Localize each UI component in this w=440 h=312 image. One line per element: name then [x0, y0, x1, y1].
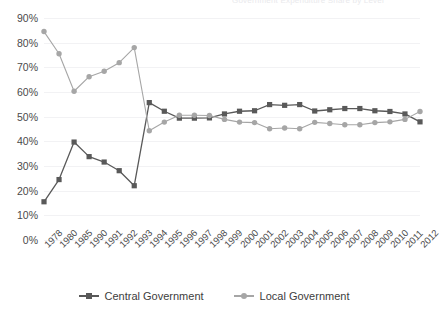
data-point-marker [56, 51, 61, 56]
data-point-marker [267, 102, 272, 107]
legend-marker-icon [86, 293, 92, 299]
series-line [44, 103, 420, 202]
data-point-marker [282, 125, 287, 130]
data-point-marker [237, 109, 242, 114]
data-point-marker [162, 109, 167, 114]
data-point-marker [312, 108, 317, 113]
data-point-marker [147, 128, 152, 133]
data-point-marker [327, 121, 332, 126]
legend-line-swatch [234, 295, 254, 297]
legend-label: Central Government [105, 290, 204, 302]
data-point-marker [41, 199, 46, 204]
data-point-marker [297, 126, 302, 131]
y-axis-tick-label: 0% [0, 234, 38, 246]
data-point-marker [282, 103, 287, 108]
data-point-marker [297, 102, 302, 107]
legend-item[interactable]: Central Government [79, 290, 204, 302]
data-point-marker [237, 119, 242, 124]
data-point-marker [87, 154, 92, 159]
data-point-marker [56, 177, 61, 182]
series-central-government [41, 100, 422, 204]
data-point-marker [372, 108, 377, 113]
y-axis-tick-label: 40% [0, 135, 38, 147]
data-point-marker [252, 120, 257, 125]
data-point-marker [71, 89, 76, 94]
data-point-marker [147, 100, 152, 105]
data-point-marker [102, 159, 107, 164]
data-point-marker [41, 29, 46, 34]
x-axis-tick-label: 2012 [418, 227, 440, 249]
data-point-marker [86, 74, 91, 79]
data-point-marker [132, 183, 137, 188]
legend-label: Local Government [260, 290, 350, 302]
data-point-marker [342, 122, 347, 127]
data-point-marker [132, 45, 137, 50]
data-point-marker [402, 111, 407, 116]
data-point-marker [387, 109, 392, 114]
data-point-marker [372, 120, 377, 125]
data-point-marker [252, 108, 257, 113]
data-point-marker [267, 126, 272, 131]
series-layer [44, 18, 420, 240]
legend-item[interactable]: Local Government [234, 290, 350, 302]
data-point-marker [327, 107, 332, 112]
data-point-marker [162, 119, 167, 124]
data-point-marker [207, 113, 212, 118]
data-point-marker [387, 119, 392, 124]
data-point-marker [222, 111, 227, 116]
data-point-marker [101, 69, 106, 74]
x-axis: 1978198019851990199119921993199419951996… [44, 242, 420, 288]
y-axis-tick-label: 30% [0, 160, 38, 172]
data-point-marker [357, 122, 362, 127]
data-point-marker [342, 106, 347, 111]
y-axis-tick-label: 90% [0, 12, 38, 24]
data-point-marker [192, 112, 197, 117]
data-point-marker [222, 117, 227, 122]
y-axis-tick-label: 60% [0, 86, 38, 98]
y-axis-tick-label: 80% [0, 37, 38, 49]
data-point-marker [117, 60, 122, 65]
data-point-marker [177, 112, 182, 117]
y-axis-tick-label: 20% [0, 185, 38, 197]
data-point-marker [357, 106, 362, 111]
series-local-government [41, 29, 422, 134]
legend-marker-icon [241, 293, 247, 299]
data-point-marker [71, 139, 76, 144]
series-line [44, 32, 420, 131]
data-point-marker [417, 119, 422, 124]
cropped-title-sliver: Government Expenditure Share by Level [232, 0, 422, 5]
plot-area [44, 18, 420, 240]
y-axis-tick-label: 50% [0, 111, 38, 123]
legend-line-swatch [79, 295, 99, 297]
y-axis-tick-label: 70% [0, 61, 38, 73]
data-point-marker [312, 120, 317, 125]
data-point-marker [117, 168, 122, 173]
y-axis-tick-label: 10% [0, 209, 38, 221]
data-point-marker [402, 117, 407, 122]
legend: Central GovernmentLocal Government [0, 290, 428, 302]
data-point-marker [417, 109, 422, 114]
